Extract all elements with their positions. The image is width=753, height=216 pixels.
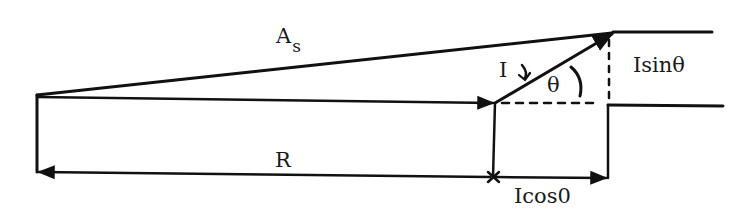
cosine-dimension-line xyxy=(496,177,606,178)
apparent-label-subscript: s xyxy=(292,36,301,56)
sine-component-label: Isinθ xyxy=(633,55,685,76)
cosine-component-label: Icos0 xyxy=(514,186,571,207)
phasor-diagram xyxy=(0,0,753,216)
middle-vertical-line xyxy=(493,103,495,177)
apparent-label: As xyxy=(276,26,301,47)
resultant-vector-line xyxy=(37,97,493,103)
current-label: I xyxy=(499,60,507,81)
angle-label: θ xyxy=(547,75,560,96)
apparent-label-main: A xyxy=(276,24,291,48)
current-pointer-arrow xyxy=(522,65,526,78)
resultant-dimension-line xyxy=(39,172,490,177)
resultant-label: R xyxy=(275,150,291,171)
lower-right-line xyxy=(608,105,723,106)
angle-arc xyxy=(571,67,581,96)
